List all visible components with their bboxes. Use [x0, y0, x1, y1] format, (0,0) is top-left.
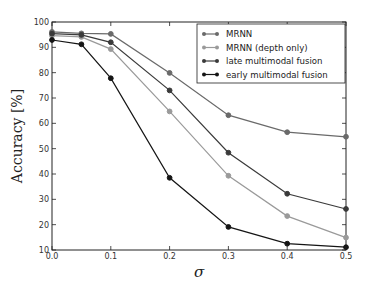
y-tick-label: 80 [39, 69, 49, 78]
data-point [285, 191, 290, 196]
data-point [108, 40, 113, 45]
x-tick-label: 0.1 [104, 252, 117, 261]
x-tick-label: 0.5 [340, 252, 353, 261]
y-tick-label: 90 [39, 43, 49, 52]
data-point [344, 207, 349, 212]
legend: MRNNMRNN (depth only)late multimodal fus… [197, 24, 345, 83]
legend-marker-icon [215, 59, 219, 63]
legend-marker-icon [215, 32, 219, 36]
data-point [167, 109, 172, 114]
legend-label: MRNN [226, 29, 252, 39]
y-tick-label: 100 [34, 18, 49, 27]
x-tick-label: 0.2 [163, 252, 176, 261]
y-tick-label: 40 [39, 170, 49, 179]
legend-marker-icon [215, 73, 219, 77]
legend-marker-icon [202, 59, 206, 63]
legend-marker-icon [202, 32, 206, 36]
accuracy-line-chart: 0.00.10.20.30.40.5102030405060708090100 … [0, 0, 366, 292]
x-tick-label: 0.4 [281, 252, 294, 261]
y-axis-label: Accuracy [%] [9, 89, 25, 184]
data-point [344, 134, 349, 139]
data-point [108, 32, 113, 37]
y-tick-label: 50 [39, 145, 49, 154]
legend-marker-icon [215, 46, 219, 50]
x-axis-label: σ [194, 263, 205, 281]
data-point [167, 71, 172, 76]
y-tick-label: 70 [39, 94, 49, 103]
data-point [226, 113, 231, 118]
data-point [108, 47, 113, 52]
data-point [285, 241, 290, 246]
legend-label: MRNN (depth only) [226, 43, 308, 53]
data-point [167, 88, 172, 93]
data-point [285, 130, 290, 135]
legend-marker-icon [202, 46, 206, 50]
data-point [50, 38, 55, 43]
legend-label: late multimodal fusion [226, 56, 323, 66]
data-point [79, 33, 84, 38]
data-point [285, 214, 290, 219]
legend-label: early multimodal fusion [226, 70, 328, 80]
y-tick-label: 30 [39, 195, 49, 204]
y-tick-label: 60 [39, 119, 49, 128]
data-point [167, 175, 172, 180]
data-point [79, 42, 84, 47]
y-tick-label: 10 [39, 246, 49, 255]
legend-marker-icon [202, 73, 206, 77]
data-point [344, 235, 349, 240]
x-tick-label: 0.3 [222, 252, 235, 261]
y-tick-label: 20 [39, 221, 49, 230]
data-point [108, 76, 113, 81]
data-point [226, 173, 231, 178]
data-point [50, 31, 55, 36]
data-point [226, 150, 231, 155]
data-point [226, 225, 231, 230]
